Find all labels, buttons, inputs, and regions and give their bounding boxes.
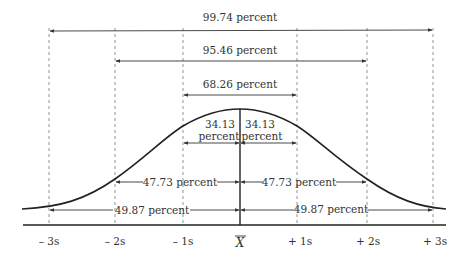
sigma-guide-lines: [49, 28, 433, 225]
tick-minus-1s: – 1s: [173, 235, 194, 247]
label-99-74: 99.74 percent: [203, 11, 278, 23]
tick-plus-1s: + 1s: [288, 235, 312, 247]
label-68-26: 68.26 percent: [203, 78, 278, 90]
label-47-73-left: 47.73 percent: [143, 176, 218, 188]
tick-mean-symbol: X: [235, 236, 245, 250]
label-34-13-right-unit: percent: [241, 130, 283, 142]
label-49-87-right: 49.87 percent: [294, 203, 369, 215]
span-arrow-pm3: [50, 30, 432, 31]
label-95-46: 95.46 percent: [203, 44, 278, 56]
tick-minus-2s: – 2s: [105, 235, 126, 247]
label-34-13-left-num: 34.13: [205, 118, 235, 130]
label-49-87-left: 49.87 percent: [115, 204, 190, 216]
tick-mean: X: [235, 236, 246, 250]
tick-plus-2s: + 2s: [356, 235, 380, 247]
label-47-73-right: 47.73 percent: [262, 176, 337, 188]
label-34-13-left-unit: percent: [198, 130, 240, 142]
label-34-13-right-num: 34.13: [245, 118, 275, 130]
tick-minus-3s: – 3s: [39, 235, 60, 247]
tick-plus-3s: + 3s: [423, 235, 447, 247]
normal-distribution-diagram: 99.74 percent 95.46 percent 68.26 percen…: [0, 0, 465, 257]
